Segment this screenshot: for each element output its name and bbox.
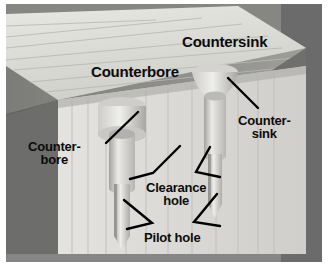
- label-pilot-hole: Pilot hole: [144, 231, 201, 244]
- label-counterbore-top: Counterbore: [91, 64, 179, 79]
- label-countersink-top: Countersink: [182, 34, 267, 49]
- diagram-figure: Countersink Counterbore Counter- sink Co…: [0, 0, 328, 273]
- label-counterbore-side: Counter- bore: [28, 140, 81, 167]
- label-clearance-hole: Clearance hole: [146, 181, 206, 208]
- diagram-stage: Countersink Counterbore Counter- sink Co…: [6, 4, 322, 262]
- label-countersink-side: Counter- sink: [238, 114, 291, 141]
